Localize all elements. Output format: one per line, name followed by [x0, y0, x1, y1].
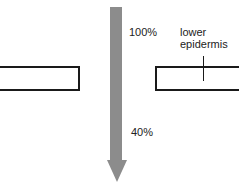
label-line-1: lower — [180, 26, 228, 38]
right-epidermis-block — [155, 66, 239, 91]
arrow-shaft — [110, 7, 122, 162]
left-epidermis-block — [0, 66, 80, 91]
lower-epidermis-label: lower epidermis — [180, 26, 228, 50]
percent-label-middle: 40% — [131, 126, 153, 138]
diagram-canvas: 100% 40% lower epidermis — [0, 0, 239, 190]
label-pointer-line — [203, 56, 204, 81]
label-line-2: epidermis — [180, 38, 228, 50]
percent-label-top: 100% — [129, 26, 157, 38]
arrow-down-icon — [107, 160, 127, 182]
